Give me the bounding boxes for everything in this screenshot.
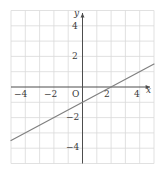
y-tick-label--2: −2 <box>66 113 79 122</box>
y-tick-label-2: 2 <box>72 52 78 61</box>
x-tick-label-4: 4 <box>134 90 140 99</box>
y-axis <box>81 13 85 164</box>
y-tick-label-4: 4 <box>72 22 78 31</box>
coordinate-plane-figure: −4 −2 2 4 4 2 −2 −4 O x y <box>0 0 163 172</box>
y-axis-label: y <box>74 9 79 18</box>
x-tick-label--4: −4 <box>14 90 27 99</box>
x-tick-label-2: 2 <box>104 90 110 99</box>
x-axis <box>11 85 150 89</box>
x-tick-label--2: −2 <box>44 90 57 99</box>
y-tick-label--4: −4 <box>66 143 79 152</box>
origin-label: O <box>72 90 79 99</box>
x-axis-label: x <box>146 86 151 95</box>
plot-canvas <box>0 0 163 172</box>
